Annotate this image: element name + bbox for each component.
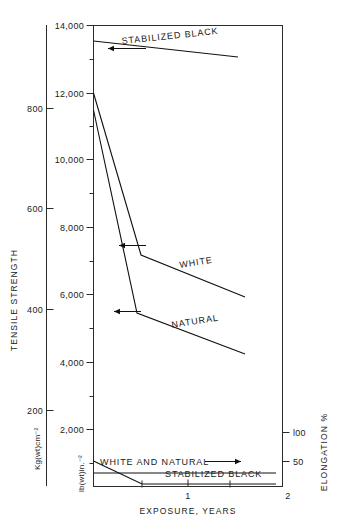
- xtick-2: 2: [285, 491, 290, 501]
- series-line-natural-tensile: [94, 110, 246, 354]
- left-axis-units-lb: lb(wt)in.⁻²: [77, 455, 86, 492]
- ytick-kg-400: 400: [27, 305, 43, 315]
- ytick-kg-800: 800: [27, 104, 43, 114]
- ytick-lb-10000: 10,000: [55, 155, 84, 165]
- chart-figure: 800 600 400 200 Kg(wt)cm⁻² 14,000 12,000…: [0, 0, 337, 519]
- series-label-stabilized-black-elongation: STABILIZED BLACK: [165, 469, 262, 479]
- left-lb-ticks-major: [87, 26, 94, 430]
- ytick-lb-6000: 6,000: [60, 290, 84, 300]
- chart-svg: 800 600 400 200 Kg(wt)cm⁻² 14,000 12,000…: [0, 0, 337, 519]
- ytick-right-100: l00: [293, 428, 306, 438]
- series-label-white: WHITE: [179, 255, 214, 270]
- leader-arrow-white-and-natural: [205, 459, 241, 464]
- x-axis-ticks: [188, 480, 283, 487]
- series-line-white-tensile: [94, 93, 246, 297]
- left-axis-units-kg: Kg(wt)cm⁻²: [33, 427, 42, 470]
- ytick-lb-8000: 8,000: [60, 223, 84, 233]
- series-label-stabilized-black-tensile: STABILIZED BLACK: [121, 26, 219, 46]
- right-elongation-ticks: [283, 433, 290, 462]
- ytick-lb-4000: 4,000: [60, 358, 84, 368]
- xtick-1: 1: [185, 491, 190, 501]
- x-axis-title: EXPOSURE, YEARS: [139, 506, 236, 516]
- ytick-lb-12000: 12,000: [55, 89, 84, 99]
- left-lb-ticks-minor: [90, 60, 94, 464]
- plot-frame: [94, 26, 283, 487]
- series-label-white-and-natural: WHITE AND NATURAL: [100, 457, 209, 467]
- series-label-natural: NATURAL: [171, 313, 220, 330]
- ytick-lb-14000: 14,000: [55, 21, 84, 31]
- ytick-kg-200: 200: [27, 406, 43, 416]
- ytick-lb-2000: 2,000: [60, 425, 84, 435]
- left-kg-ticks: [47, 109, 54, 411]
- ytick-right-50: 50: [293, 457, 304, 467]
- right-axis-title: ELONGATION %: [319, 413, 329, 491]
- y-axis-title: TENSILE STRENGTH: [9, 249, 19, 351]
- ytick-kg-600: 600: [27, 204, 43, 214]
